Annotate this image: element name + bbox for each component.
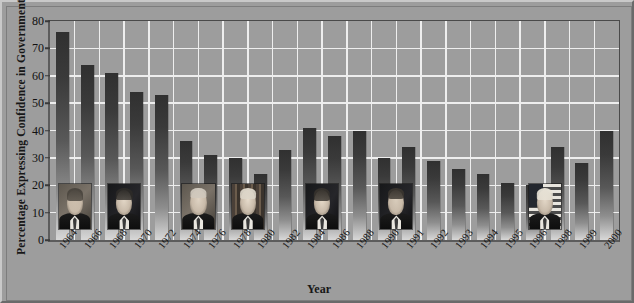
y-axis-tick-label: 10 [32,205,44,220]
y-axis-tick-mark [45,157,50,159]
plot-area: 01020304050607080 [48,20,620,242]
portrait-nixon [108,184,140,229]
y-axis-tick-label: 50 [32,96,44,111]
y-axis-tick-mark [45,212,50,214]
portrait-ford [182,184,214,229]
portrait-johnson [59,184,91,229]
y-axis-tick-label: 70 [32,41,44,56]
portrait-hair [116,188,132,199]
x-axis-tick-labels: 1964196619681970197219741976197819801982… [48,244,620,284]
y-axis-tick-mark [45,185,50,187]
portrait-hair [314,188,330,200]
y-axis-tick-mark [45,48,50,50]
portrait-hair [240,188,256,199]
portrait-clinton [529,184,561,229]
y-axis-tick-mark [45,75,50,77]
y-axis-tick-label: 80 [32,14,44,29]
portrait-reagan [306,184,338,229]
portrait-hair [67,188,83,200]
president-portraits [50,21,619,240]
y-axis-title: Percentage Expressing Confidence in Gove… [15,5,31,255]
portrait-carter [232,184,264,229]
chart-frame: Percentage Expressing Confidence in Gove… [0,0,634,303]
portrait-hair [537,188,553,199]
y-axis-tick-label: 20 [32,178,44,193]
portrait-hair [388,188,404,199]
x-axis-title: Year [2,282,634,297]
portrait-bush [380,184,412,229]
y-axis-tick-mark [45,102,50,104]
y-axis-tick-label: 40 [32,123,44,138]
y-axis-tick-mark [45,130,50,132]
portrait-hair [191,188,206,198]
y-axis-tick-label: 60 [32,68,44,83]
y-axis-tick-label: 30 [32,150,44,165]
y-axis-tick-mark [45,20,50,22]
y-axis-tick-label: 0 [38,233,44,248]
y-axis-tick-mark [45,239,50,241]
